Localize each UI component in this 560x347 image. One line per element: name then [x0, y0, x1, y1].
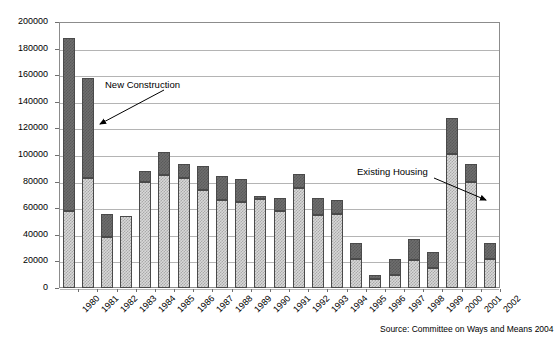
housing-stacked-bar-chart: 2000001800001600001400001200001000008000… — [0, 0, 560, 347]
x-axis-label-1987: 1987 — [215, 294, 236, 315]
x-axis-label-1999: 1999 — [445, 294, 466, 315]
bar-segment-new-construction-1984 — [139, 171, 151, 182]
x-axis-label-1988: 1988 — [234, 294, 255, 315]
bar-segment-existing-housing-1989 — [235, 202, 247, 288]
bar-segment-new-construction-2002 — [484, 243, 496, 259]
source-note: Source: Committee on Ways and Means 2004 — [380, 325, 554, 334]
x-axis-label-2000: 2000 — [464, 294, 485, 315]
annotation-existing-housing: Existing Housing — [357, 167, 428, 177]
y-axis-tick-label: 140000 — [0, 97, 48, 106]
x-axis-label-1984: 1984 — [157, 294, 178, 315]
x-axis-tick-mark — [97, 289, 98, 292]
bar-segment-new-construction-1997 — [389, 259, 401, 275]
bar-segment-existing-housing-1992 — [293, 188, 305, 288]
bar-segment-new-construction-1989 — [235, 179, 247, 202]
y-axis-tick-label: 200000 — [0, 17, 48, 26]
bar-segment-new-construction-2000 — [446, 118, 458, 154]
x-axis-label-1992: 1992 — [311, 294, 332, 315]
x-axis-tick-mark — [155, 289, 156, 292]
bar-segment-new-construction-1987 — [197, 166, 209, 190]
y-axis-tick-label: 40000 — [0, 230, 48, 239]
x-axis-label-1993: 1993 — [330, 294, 351, 315]
x-axis-tick-mark — [385, 289, 386, 292]
bar-segment-existing-housing-1998 — [408, 260, 420, 288]
x-axis-label-2001: 2001 — [483, 294, 504, 315]
x-axis-tick-mark — [174, 289, 175, 292]
x-axis-tick-mark — [347, 289, 348, 292]
bar-segment-existing-housing-1993 — [312, 215, 324, 288]
bar-segment-new-construction-1985 — [158, 152, 170, 175]
bar-segment-existing-housing-1997 — [389, 275, 401, 288]
x-axis-label-1997: 1997 — [406, 294, 427, 315]
bar-segment-new-construction-1982 — [101, 214, 113, 238]
x-axis-label-1986: 1986 — [195, 294, 216, 315]
x-axis-tick-mark — [232, 289, 233, 292]
leader-line-existing-housing — [432, 176, 494, 206]
y-axis-tick-label: 80000 — [0, 177, 48, 186]
bar-segment-existing-housing-1982 — [101, 237, 113, 288]
bar-segment-existing-housing-1988 — [216, 200, 228, 288]
bar-segment-existing-housing-1981 — [82, 178, 94, 288]
bar-segment-new-construction-1980 — [63, 38, 75, 211]
y-axis-tick-label: 160000 — [0, 70, 48, 79]
x-axis-label-2002: 2002 — [502, 294, 523, 315]
bar-segment-existing-housing-2000 — [446, 154, 458, 288]
bar-segment-new-construction-1993 — [312, 198, 324, 215]
bar-segment-existing-housing-1985 — [158, 175, 170, 288]
x-axis-tick-mark — [78, 289, 79, 292]
bar-segment-existing-housing-1990 — [254, 199, 266, 288]
y-axis-tick-label: 100000 — [0, 150, 48, 159]
bar-segment-new-construction-1999 — [427, 252, 439, 268]
bar-segment-existing-housing-1984 — [139, 182, 151, 288]
x-axis-label-1991: 1991 — [291, 294, 312, 315]
y-axis-tick-label: 180000 — [0, 44, 48, 53]
bar-segment-new-construction-1992 — [293, 174, 305, 189]
x-axis-tick-mark — [212, 289, 213, 292]
x-axis-tick-mark — [136, 289, 137, 292]
bar-segment-existing-housing-1986 — [178, 178, 190, 288]
x-axis-tick-mark — [366, 289, 367, 292]
x-axis-tick-mark — [404, 289, 405, 292]
x-axis-label-1996: 1996 — [387, 294, 408, 315]
x-axis-tick-mark — [423, 289, 424, 292]
x-axis-label-1985: 1985 — [176, 294, 197, 315]
x-axis-tick-mark — [442, 289, 443, 292]
bar-segment-existing-housing-1996 — [369, 279, 381, 288]
bar-segment-new-construction-1995 — [350, 243, 362, 259]
y-axis-tick-label: 120000 — [0, 123, 48, 132]
x-axis-label-1981: 1981 — [100, 294, 121, 315]
bar-segment-existing-housing-1983 — [120, 216, 132, 288]
bar-segment-new-construction-1996 — [369, 275, 381, 279]
bar-segment-existing-housing-1991 — [274, 211, 286, 288]
x-axis-tick-mark — [193, 289, 194, 292]
x-axis-label-1982: 1982 — [119, 294, 140, 315]
y-axis-tick-label: 60000 — [0, 203, 48, 212]
bar-segment-existing-housing-1980 — [63, 211, 75, 288]
x-axis-tick-mark — [270, 289, 271, 292]
x-axis-tick-mark — [308, 289, 309, 292]
x-axis-label-1989: 1989 — [253, 294, 274, 315]
x-axis-labels: 1980198119821983198419851986198719881989… — [59, 289, 500, 329]
bar-segment-new-construction-1986 — [178, 164, 190, 177]
bar-segment-new-construction-1988 — [216, 176, 228, 200]
bar-segment-existing-housing-1994 — [331, 214, 343, 288]
x-axis-label-1980: 1980 — [80, 294, 101, 315]
bar-segment-new-construction-1991 — [274, 198, 286, 211]
bar-segment-existing-housing-1995 — [350, 259, 362, 288]
x-axis-tick-mark — [500, 289, 501, 292]
x-axis-tick-mark — [289, 289, 290, 292]
x-axis-label-1983: 1983 — [138, 294, 159, 315]
x-axis-label-1990: 1990 — [272, 294, 293, 315]
leader-line-new-construction — [92, 88, 172, 130]
y-axis-tick-label: 0 — [0, 283, 48, 292]
x-axis-label-1995: 1995 — [368, 294, 389, 315]
x-axis-tick-mark — [481, 289, 482, 292]
bar-segment-new-construction-1990 — [254, 196, 266, 199]
bar-segment-existing-housing-1987 — [197, 190, 209, 288]
x-axis-label-1998: 1998 — [426, 294, 447, 315]
y-axis-tick-label: 20000 — [0, 256, 48, 265]
bar-segment-existing-housing-2002 — [484, 259, 496, 288]
x-axis-tick-mark — [117, 289, 118, 292]
x-axis-tick-mark — [327, 289, 328, 292]
bar-segment-existing-housing-1999 — [427, 268, 439, 288]
